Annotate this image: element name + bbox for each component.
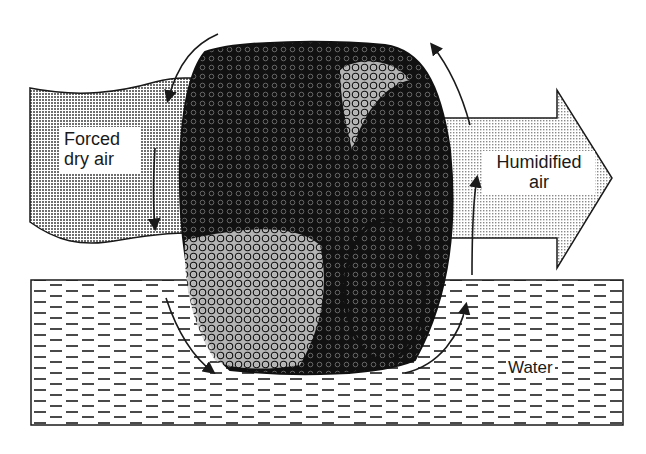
inlet-label-line2: dry air [64, 150, 136, 170]
outlet-label: Humidified air [483, 151, 595, 195]
water-label: Water [506, 359, 555, 378]
outlet-label-line2: air [485, 173, 593, 193]
inlet-label-line1: Forced [64, 130, 136, 150]
inlet-label: Forced dry air [60, 127, 140, 173]
outlet-label-line1: Humidified [485, 153, 593, 173]
rotating-wick-drum [180, 42, 453, 374]
humidifier-diagram [0, 0, 646, 454]
